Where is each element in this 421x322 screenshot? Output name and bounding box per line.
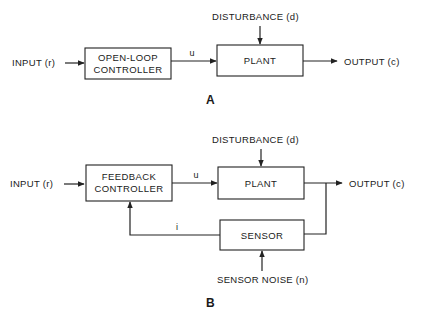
controller-label-line1-b: FEEDBACK <box>102 171 157 182</box>
open-loop-diagram: INPUT (r) OPEN-LOOP CONTROLLER u PLANT D… <box>12 11 400 107</box>
controller-label-line2-b: CONTROLLER <box>95 183 164 194</box>
control-signal-label-b: u <box>193 170 198 180</box>
control-system-diagram: INPUT (r) OPEN-LOOP CONTROLLER u PLANT D… <box>0 0 421 322</box>
sensor-noise-label: SENSOR NOISE (n) <box>217 274 308 285</box>
feedback-signal-label: i <box>176 222 178 232</box>
panel-label-b: B <box>206 296 215 310</box>
feedback-diagram: INPUT (r) FEEDBACK CONTROLLER u PLANT DI… <box>10 134 405 310</box>
input-label-b: INPUT (r) <box>10 178 53 189</box>
output-label-a: OUTPUT (c) <box>344 56 400 67</box>
panel-label-a: A <box>206 93 215 107</box>
plant-label-b: PLANT <box>245 178 278 189</box>
output-to-sensor-line <box>304 183 326 234</box>
output-label-b: OUTPUT (c) <box>349 178 405 189</box>
plant-label-a: PLANT <box>244 55 277 66</box>
controller-label-line2-a: CONTROLLER <box>94 64 163 75</box>
feedback-arrow <box>130 202 220 235</box>
control-signal-label-a: u <box>189 48 194 58</box>
input-label-a: INPUT (r) <box>12 57 55 68</box>
sensor-label: SENSOR <box>241 230 284 241</box>
controller-label-line1-a: OPEN-LOOP <box>98 52 158 63</box>
disturbance-label-b: DISTURBANCE (d) <box>212 134 299 145</box>
disturbance-label-a: DISTURBANCE (d) <box>212 11 299 22</box>
